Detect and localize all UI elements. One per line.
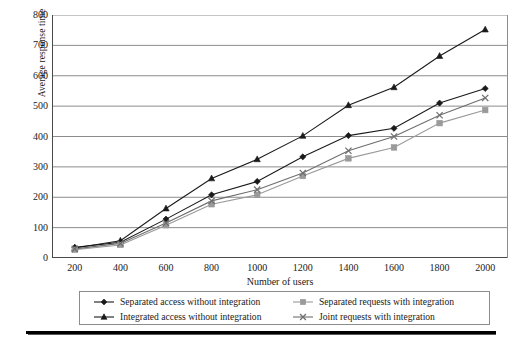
data-point-marker-triangle [391, 84, 397, 90]
x-tick-label: 800 [190, 262, 234, 273]
x-tick-label: 2000 [463, 262, 507, 273]
data-point-marker-diamond [437, 100, 443, 106]
series-markers [72, 26, 489, 252]
figure: 8007006005004003002001000 Average respon… [0, 0, 522, 341]
data-point-marker-diamond [300, 154, 306, 160]
series-line [75, 89, 485, 248]
data-point-marker-triangle [254, 156, 260, 162]
data-point-marker-diamond [482, 85, 488, 91]
y-tick-label: 400 [18, 132, 48, 142]
legend: Separated access without integration Int… [79, 291, 490, 325]
legend-marker-square-icon [292, 296, 314, 308]
data-point-marker-triangle [163, 205, 169, 211]
x-axis-tick-labels: 200400600800100012001400160018002000 [52, 262, 508, 276]
bottom-rule-shadow [28, 334, 496, 335]
legend-entry: Separated requests with integration [292, 294, 487, 309]
data-point-marker-square [72, 247, 78, 253]
data-point-marker-x [437, 112, 443, 118]
data-point-marker-diamond [345, 132, 351, 138]
legend-marker-x-icon [292, 311, 314, 323]
legend-column-right: Separated requests with integration Join… [292, 294, 487, 324]
x-tick-label: 1400 [326, 262, 370, 273]
x-tick-label: 1200 [281, 262, 325, 273]
legend-entry: Joint requests with integration [292, 309, 487, 324]
legend-entry: Separated access without integration [93, 294, 298, 309]
data-point-marker-square [346, 156, 352, 162]
legend-marker-diamond-icon [93, 296, 115, 308]
x-tick-label: 400 [98, 262, 142, 273]
data-point-marker-triangle [436, 53, 442, 59]
y-tick-label: 200 [18, 192, 48, 202]
legend-entry-label: Separated access without integration [120, 296, 260, 308]
gridlines [52, 15, 508, 258]
series-lines [75, 30, 485, 250]
data-point-marker-square [482, 107, 488, 113]
legend-entry-label: Joint requests with integration [319, 311, 435, 323]
series-line [75, 30, 485, 248]
legend-entry: Integrated access without integration [93, 309, 298, 324]
data-point-marker-x [482, 95, 488, 101]
x-tick-label: 1000 [235, 262, 279, 273]
chart-canvas [52, 15, 508, 258]
legend-entry-label: Integrated access without integration [120, 311, 261, 323]
plot-area [52, 15, 508, 258]
data-point-marker-triangle [300, 132, 306, 138]
data-point-marker-square [300, 299, 305, 304]
y-tick-label: 0 [18, 253, 48, 263]
data-point-marker-diamond [391, 125, 397, 131]
data-point-marker-square [437, 120, 443, 126]
data-point-marker-diamond [101, 299, 107, 305]
series-line [75, 98, 485, 249]
legend-column-left: Separated access without integration Int… [93, 294, 298, 324]
x-axis-title: Number of users [52, 276, 508, 287]
data-point-marker-triangle [482, 26, 488, 32]
y-axis-title: Average response time [37, 0, 47, 133]
x-tick-label: 200 [53, 262, 97, 273]
legend-marker-triangle-icon [93, 311, 115, 323]
data-point-marker-square [254, 192, 260, 198]
y-tick-label: 100 [18, 223, 48, 233]
data-point-marker-diamond [254, 178, 260, 184]
data-point-marker-x [345, 148, 351, 154]
data-point-marker-square [391, 145, 397, 151]
x-tick-label: 1600 [372, 262, 416, 273]
y-tick-label: 300 [18, 162, 48, 172]
x-tick-label: 1800 [418, 262, 462, 273]
x-tick-label: 600 [144, 262, 188, 273]
legend-entry-label: Separated requests with integration [319, 296, 454, 308]
